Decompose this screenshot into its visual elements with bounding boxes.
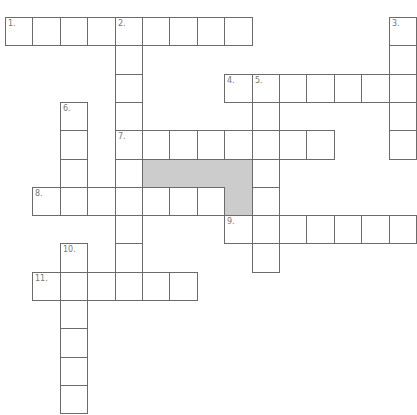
clue-number: 11.	[35, 274, 48, 283]
crossword-cell[interactable]	[115, 102, 143, 131]
crossword-cell[interactable]	[197, 17, 225, 46]
crossword-cell[interactable]	[389, 215, 417, 244]
crossword-cell[interactable]	[87, 17, 116, 46]
crossword-cell[interactable]	[224, 130, 253, 160]
shaded-block	[197, 159, 224, 187]
crossword-cell[interactable]	[279, 130, 307, 160]
crossword-cell[interactable]	[60, 357, 88, 386]
crossword-cell[interactable]	[60, 17, 88, 46]
crossword-cell[interactable]	[115, 74, 143, 103]
crossword-cell[interactable]	[169, 187, 198, 216]
crossword-cell[interactable]	[389, 74, 417, 103]
crossword-cell[interactable]	[306, 74, 335, 103]
crossword-cell[interactable]	[60, 300, 88, 329]
crossword-cell[interactable]	[252, 159, 280, 188]
crossword-cell[interactable]	[361, 74, 390, 103]
crossword-cell[interactable]: 5.	[252, 74, 280, 103]
crossword-cell[interactable]	[60, 159, 88, 188]
crossword-cell[interactable]: 11.	[32, 272, 61, 301]
crossword-cell[interactable]: 9.	[224, 215, 253, 244]
crossword-cell[interactable]: 3.	[389, 17, 417, 46]
crossword-cell[interactable]	[142, 17, 170, 46]
crossword-cell[interactable]	[115, 45, 143, 75]
crossword-cell[interactable]: 7.	[115, 130, 143, 160]
crossword-cell[interactable]	[252, 243, 280, 273]
crossword-cell[interactable]	[60, 272, 88, 301]
shaded-block	[224, 159, 252, 187]
shaded-block	[169, 159, 197, 187]
crossword-cell[interactable]	[87, 187, 116, 216]
crossword-cell[interactable]	[306, 215, 335, 244]
crossword-cell[interactable]	[60, 130, 88, 160]
crossword-cell[interactable]	[252, 187, 280, 216]
crossword-cell[interactable]: 1.	[5, 17, 33, 46]
crossword-cell[interactable]	[224, 17, 253, 46]
clue-number: 10.	[63, 245, 76, 254]
crossword-cell[interactable]	[169, 272, 198, 301]
crossword-cell[interactable]	[389, 130, 417, 160]
crossword-cell[interactable]	[60, 328, 88, 358]
shaded-block	[142, 159, 169, 187]
crossword-cell[interactable]: 8.	[32, 187, 61, 216]
crossword-cell[interactable]	[60, 187, 88, 216]
crossword-cell[interactable]	[115, 272, 143, 301]
clue-number: 5.	[255, 76, 263, 85]
crossword-cell[interactable]	[334, 215, 362, 244]
clue-number: 3.	[392, 19, 400, 28]
clue-number: 2.	[118, 19, 126, 28]
clue-number: 9.	[227, 217, 235, 226]
crossword-cell[interactable]	[115, 159, 143, 188]
crossword-cell[interactable]: 2.	[115, 17, 143, 46]
crossword-cell[interactable]	[115, 243, 143, 273]
crossword-cell[interactable]	[252, 102, 280, 131]
clue-number: 6.	[63, 104, 71, 113]
clue-number: 1.	[8, 19, 16, 28]
clue-number: 4.	[227, 76, 235, 85]
crossword-cell[interactable]	[60, 385, 88, 414]
crossword-cell[interactable]	[197, 130, 225, 160]
crossword-cell[interactable]	[306, 130, 335, 160]
clue-number: 8.	[35, 189, 43, 198]
crossword-cell[interactable]	[115, 215, 143, 244]
crossword-cell[interactable]	[142, 130, 170, 160]
crossword-cell[interactable]	[142, 272, 170, 301]
crossword-cell[interactable]	[361, 215, 390, 244]
crossword-cell[interactable]	[169, 130, 198, 160]
crossword-cell[interactable]	[252, 130, 280, 160]
crossword-cell[interactable]	[279, 74, 307, 103]
clue-number: 7.	[118, 132, 126, 141]
crossword-cell[interactable]	[197, 187, 225, 216]
shaded-block	[224, 187, 252, 215]
crossword-cell[interactable]	[87, 272, 116, 301]
crossword-cell[interactable]	[389, 45, 417, 75]
crossword-cell[interactable]	[389, 102, 417, 131]
crossword-cell[interactable]: 6.	[60, 102, 88, 131]
crossword-cell[interactable]	[334, 74, 362, 103]
crossword-cell[interactable]: 10.	[60, 243, 88, 273]
crossword-cell[interactable]	[279, 215, 307, 244]
crossword-cell[interactable]: 4.	[224, 74, 253, 103]
crossword-cell[interactable]	[32, 17, 61, 46]
crossword-cell[interactable]	[142, 187, 170, 216]
crossword-cell[interactable]	[115, 187, 143, 216]
crossword-cell[interactable]	[169, 17, 198, 46]
crossword-cell[interactable]	[252, 215, 280, 244]
